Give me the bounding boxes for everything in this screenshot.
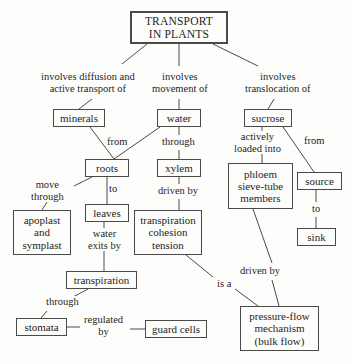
edge-label-l-drivenby: driven by [157,185,199,197]
node-roots: roots [85,159,129,177]
connector-e-tct-isa [186,255,213,277]
edge-label-l-movement: involves movement of [151,71,209,94]
edge-label-l-diffusion: involves diffusion and active transport … [40,71,136,94]
edge-label-l-move: move through [30,179,65,202]
node-pressureflow: pressure-flow mechanism (bulk flow) [240,306,319,351]
node-apoplast: apoplast and symplast [13,210,71,255]
node-tct: transpiration cohesion tension [134,210,202,255]
node-stomata: stomata [16,318,67,336]
connector-e-transport-transloc [213,44,258,66]
edge-label-l-through2: through [45,296,80,308]
node-source: source [297,172,342,190]
node-transport: TRANSPORT IN PLANTS [130,11,228,44]
connector-e-move-apoplast [42,202,47,210]
connector-e-roots-apoplast [74,177,92,186]
node-water: water [157,109,201,127]
edge-label-l-translocation: involves translocation of [244,71,312,94]
edge-label-l-from: from [106,136,128,148]
concept-map-canvas: TRANSPORT IN PLANTSmineralswatersucroser… [0,0,353,364]
node-sucrose: sucrose [244,109,292,127]
edge-label-l-to2: to [311,203,321,215]
node-transpiration: transpiration [66,271,137,289]
edge-label-l-regulated: regulated by [83,314,124,337]
node-phloem: phloem sieve-tube members [228,163,293,209]
connector-e-transloc-sucrose [268,99,274,109]
node-guardcells: guard cells [145,320,207,338]
edge-label-l-from2: from [303,135,325,147]
edge-label-l-to: to [108,183,118,195]
node-sink: sink [297,228,336,246]
node-xylem: xylem [157,159,201,177]
edge-label-l-drivenby2: driven by [239,265,281,277]
connector-e-drivenby2-pressure [272,280,279,306]
edge-label-l-through-x: through [161,136,196,148]
connector-e-diffusion-minerals [79,99,92,109]
connector-e-isa-pressure [235,289,258,306]
node-minerals: minerals [53,109,105,127]
node-leaves: leaves [85,204,129,222]
edge-label-l-actively: actively loaded into [233,131,282,154]
edge-label-l-waterexits: water exits by [87,228,122,251]
connector-e-phloem-pressure [253,209,272,263]
edge-label-l-isa: is a [216,278,232,290]
connector-e-through2-stomata [41,311,47,318]
connector-e-transport-minerals [122,44,147,64]
